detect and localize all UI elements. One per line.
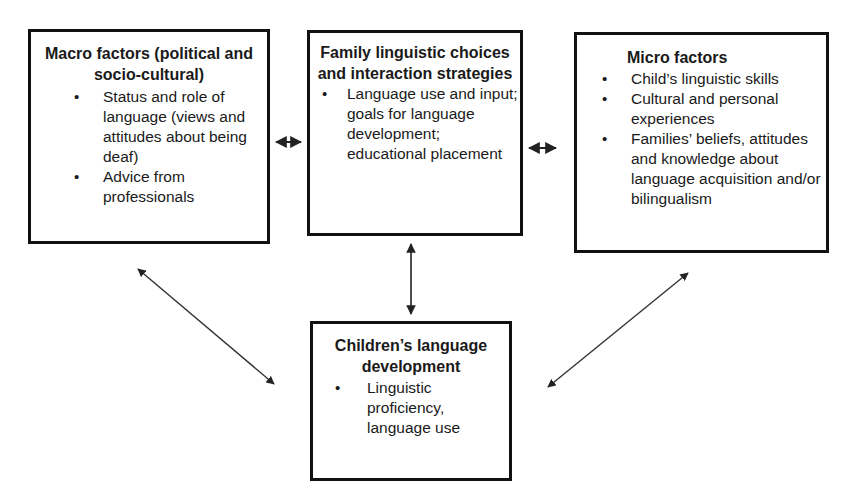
children-development-box: Children’s language development Linguist…	[310, 321, 512, 481]
list-item: Families’ beliefs, attitudes and knowled…	[577, 129, 826, 209]
children-development-title: Children’s language development	[317, 335, 505, 377]
list-item: Language use and input; goals for langua…	[310, 84, 520, 164]
children-development-list: Linguistic proficiency, language use	[313, 378, 509, 438]
macro-factors-box: Macro factors (political and socio-cultu…	[28, 29, 270, 244]
list-item: Advice from professionals	[31, 167, 267, 207]
family-choices-list: Language use and input; goals for langua…	[310, 84, 520, 164]
family-choices-title: Family linguistic choices and interactio…	[314, 42, 516, 84]
arrow-micro-children	[548, 273, 688, 387]
macro-factors-list: Status and role of language (views and a…	[31, 87, 267, 207]
micro-factors-box: Micro factors Child’s linguistic skills …	[574, 32, 829, 253]
micro-factors-title: Micro factors	[627, 47, 826, 68]
arrow-macro-children	[138, 269, 274, 384]
list-item: Child’s linguistic skills	[577, 69, 826, 89]
macro-factors-title: Macro factors (political and socio-cultu…	[37, 43, 261, 85]
family-choices-box: Family linguistic choices and interactio…	[307, 30, 523, 236]
list-item: Status and role of language (views and a…	[31, 87, 267, 167]
micro-factors-list: Child’s linguistic skills Cultural and p…	[577, 69, 826, 209]
list-item: Cultural and personal experiences	[577, 89, 826, 129]
list-item: Linguistic proficiency, language use	[313, 378, 509, 438]
